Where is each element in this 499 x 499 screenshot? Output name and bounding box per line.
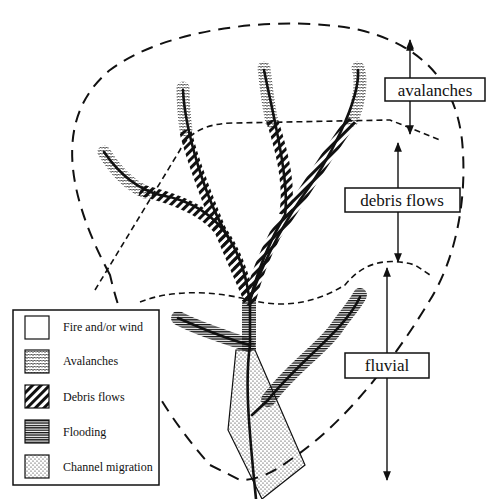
zone-label-avalanches: avalanches [385, 78, 485, 101]
dots-swatch-icon [25, 455, 49, 478]
zone-label-fluvial: fluvial [345, 353, 429, 378]
watershed-diagram: avalanches debris flows fluvial Fire and… [0, 0, 499, 499]
legend: Fire and/or wind Avalanches Debris flows… [13, 310, 159, 485]
legend-label: Channel migration [63, 460, 153, 474]
legend-label: Avalanches [63, 354, 118, 368]
blank-swatch-icon [25, 316, 49, 339]
diagonal-stripes-swatch-icon [25, 385, 49, 408]
zigzag-swatch-icon [25, 350, 49, 373]
legend-label: Fire and/or wind [63, 320, 143, 334]
zone-label-debris-flows-text: debris flows [360, 191, 444, 210]
zone-label-avalanches-text: avalanches [398, 81, 473, 100]
debris-flow-band-right [250, 120, 352, 300]
zone-label-fluvial-text: fluvial [365, 356, 410, 375]
zone-label-debris-flows: debris flows [345, 188, 460, 212]
horizontal-lines-swatch-icon [25, 420, 49, 443]
legend-label: Debris flows [63, 390, 125, 404]
legend-label: Flooding [63, 425, 106, 439]
